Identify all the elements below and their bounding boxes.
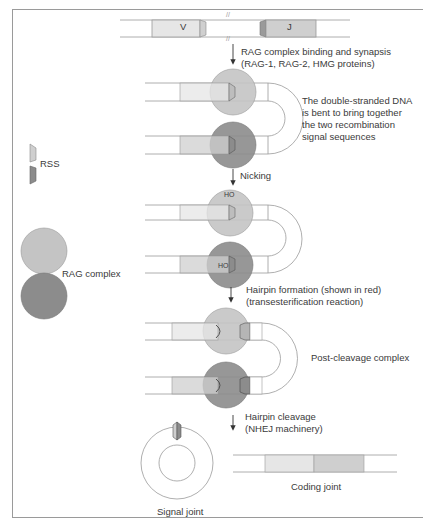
initial-dna: // // [120, 11, 350, 42]
legend-rss-label: RSS [40, 158, 60, 170]
ho-bottom-label: HO [218, 260, 229, 272]
rag-legend-dark [21, 273, 67, 319]
svg-text://: // [226, 11, 230, 18]
legend-rag-label: RAG complex [62, 268, 121, 280]
j-label: J [287, 21, 292, 33]
step4-label-line2: (NHEJ machinery) [245, 423, 323, 435]
rss-j-icon [260, 20, 266, 37]
synapsis-note-line3: the two recombination [302, 119, 395, 131]
legend [21, 144, 67, 319]
post-cleavage-label: Post-cleavage complex [311, 352, 409, 364]
step4-label-line1: Hairpin cleavage [245, 411, 316, 423]
signal-joint [141, 422, 213, 499]
step3-label-line1: Hairpin formation (shown in red) [246, 284, 381, 296]
step3-label-line2: (transesterification reaction) [246, 296, 363, 308]
signal-joint-label: Signal joint [157, 506, 203, 518]
post-cleavage-complex [145, 308, 298, 408]
synapsis-note-line2: is bent to bring together [302, 107, 402, 119]
signal-joint-rss-icon [173, 422, 177, 440]
synapsis-note-line4: signal sequences [302, 131, 375, 143]
step2-label: Nicking [240, 170, 271, 182]
coding-joint [233, 455, 397, 472]
v-label: V [180, 21, 186, 33]
svg-text://: // [226, 35, 230, 42]
v-segment [152, 20, 200, 37]
coding-joint-label: Coding joint [291, 481, 341, 493]
step1-label-line1: RAG complex binding and synapsis [241, 46, 391, 58]
synapsis-complex [145, 69, 303, 168]
nicked-complex [145, 190, 302, 288]
rss-light-icon [30, 144, 36, 162]
rag-legend-light [21, 228, 67, 274]
ho-top-label: HO [224, 189, 235, 201]
rss-dark-icon [30, 166, 36, 184]
step1-label-line2: (RAG-1, RAG-2, HMG proteins) [241, 58, 375, 70]
synapsis-note-line1: The double-stranded DNA [302, 95, 412, 107]
rss-v-icon [200, 20, 206, 37]
